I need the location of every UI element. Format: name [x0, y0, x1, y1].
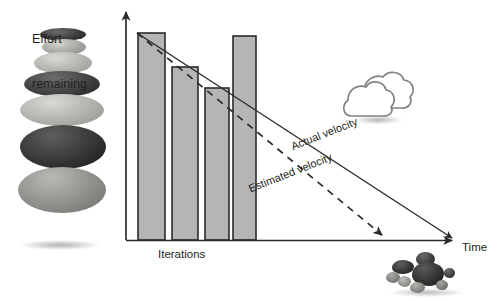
- iteration-bar-3[interactable]: [205, 88, 229, 240]
- y-axis-label-line1: Effort: [32, 32, 87, 47]
- iteration-bar-1[interactable]: [138, 33, 165, 240]
- stone-1: [18, 167, 106, 213]
- rock-f: [410, 282, 425, 293]
- x-axis-end-label: Time: [462, 241, 487, 253]
- rock-e: [398, 276, 411, 287]
- iteration-bar-2[interactable]: [172, 67, 198, 240]
- rock-pile-shadow: [390, 288, 464, 297]
- y-axis-label: Effort remaining: [32, 2, 87, 107]
- rock-pile-icon: [386, 252, 470, 298]
- rock-g: [444, 268, 455, 278]
- x-axis-label: Iterations: [158, 248, 205, 260]
- stone-2: [20, 125, 106, 169]
- rock-h: [436, 280, 448, 290]
- stone-stack-shadow: [20, 240, 100, 250]
- bar-group: [138, 33, 256, 240]
- y-axis-label-line2: remaining: [32, 77, 87, 92]
- iteration-bar-4[interactable]: [233, 36, 256, 240]
